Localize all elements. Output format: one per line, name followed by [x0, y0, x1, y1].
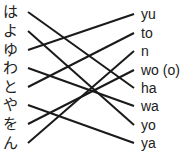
romaji-n: n [141, 43, 149, 59]
kana-wa: わ [3, 59, 18, 77]
kana-yo: よ [3, 22, 18, 40]
romaji-ya: ya [141, 135, 156, 151]
kana-wo: を [3, 115, 18, 133]
match-line [28, 12, 134, 88]
romaji-to: to [141, 25, 153, 41]
match-line [28, 51, 134, 143]
kana-n: ん [3, 134, 18, 152]
kana-yu: ゆ [3, 41, 18, 59]
romaji-yo: yo [141, 117, 156, 133]
kana-to: と [3, 78, 18, 96]
matching-lines [0, 0, 189, 160]
romaji-ha: ha [141, 80, 157, 96]
match-line [28, 14, 134, 50]
kana-ya: や [3, 96, 18, 114]
romaji-yu: yu [141, 6, 156, 22]
match-line [28, 68, 134, 106]
romaji-wo: wo (o) [141, 62, 180, 78]
kana-ha: は [3, 3, 18, 21]
romaji-wa: wa [141, 98, 159, 114]
